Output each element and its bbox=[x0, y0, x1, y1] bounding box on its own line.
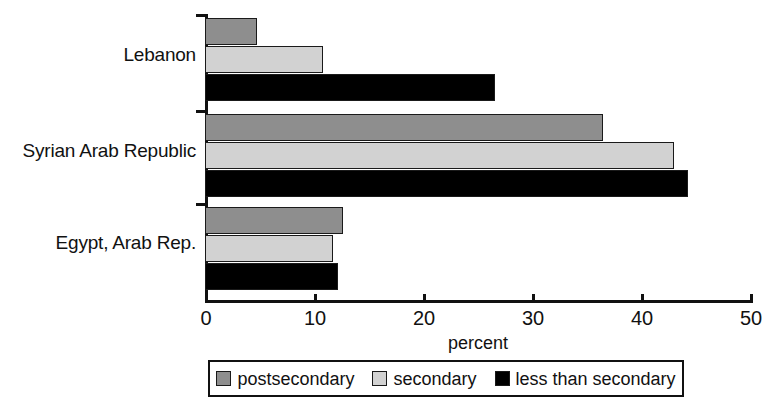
x-axis-tick bbox=[750, 294, 753, 303]
x-axis-tick bbox=[423, 294, 426, 303]
bar-lebanon-secondary bbox=[205, 46, 323, 73]
category-label-lebanon: Lebanon bbox=[0, 44, 196, 66]
legend-swatch-icon bbox=[495, 371, 510, 386]
x-axis-tick-label-50: 50 bbox=[721, 306, 765, 330]
bar-syria-postsecondary bbox=[205, 114, 603, 141]
bar-lebanon-postsecondary bbox=[205, 18, 257, 45]
x-axis-tick bbox=[641, 294, 644, 303]
x-axis-tick-label-10: 10 bbox=[285, 306, 345, 330]
x-axis-title: percent bbox=[205, 333, 751, 354]
bar-group-syrian-arab-republic bbox=[205, 114, 750, 206]
legend-swatch-icon bbox=[372, 371, 387, 386]
legend-item-postsecondary: postsecondary bbox=[216, 369, 354, 389]
x-axis-tick-label-30: 30 bbox=[503, 306, 563, 330]
legend-label-less-than-secondary: less than secondary bbox=[516, 369, 676, 389]
x-axis-tick bbox=[532, 294, 535, 303]
bar-egypt-secondary bbox=[205, 235, 333, 262]
x-axis-tick-label-20: 20 bbox=[394, 306, 454, 330]
bar-chart: Lebanon Syrian Arab Republic Egypt, Arab… bbox=[0, 0, 765, 401]
category-label-group: Lebanon Syrian Arab Republic Egypt, Arab… bbox=[0, 0, 196, 288]
bar-group-lebanon bbox=[205, 18, 750, 110]
bar-egypt-less-than-secondary bbox=[205, 263, 338, 290]
x-axis-tick-label-0: 0 bbox=[176, 306, 236, 330]
legend-item-less-than-secondary: less than secondary bbox=[495, 369, 676, 389]
x-axis-tick bbox=[314, 294, 317, 303]
legend-label-postsecondary: postsecondary bbox=[237, 369, 354, 389]
bar-syria-secondary bbox=[205, 142, 674, 169]
bar-syria-less-than-secondary bbox=[205, 170, 688, 197]
category-label-egypt-arab-rep: Egypt, Arab Rep. bbox=[0, 232, 196, 254]
x-axis-tick-label-40: 40 bbox=[612, 306, 672, 330]
chart-legend: postsecondary secondary less than second… bbox=[208, 360, 684, 397]
x-axis-tick bbox=[205, 294, 208, 303]
bar-egypt-postsecondary bbox=[205, 207, 343, 234]
category-label-syrian-arab-republic: Syrian Arab Republic bbox=[0, 140, 196, 162]
bar-lebanon-less-than-secondary bbox=[205, 74, 495, 101]
bar-group-egypt-arab-rep bbox=[205, 207, 750, 299]
legend-item-secondary: secondary bbox=[372, 369, 476, 389]
plot-area bbox=[205, 14, 750, 302]
legend-label-secondary: secondary bbox=[393, 369, 476, 389]
legend-swatch-icon bbox=[216, 371, 231, 386]
